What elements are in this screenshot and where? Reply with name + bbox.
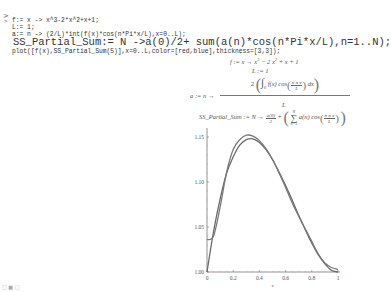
x-tick-label: 0.6 [282, 275, 289, 281]
output-f-definition: f := x → x3 − 2 x2 + x + 1 [230, 57, 298, 65]
code-line-plot[interactable]: plot([f(x),SS_Partial_Sum(5)],x=0..L,col… [12, 48, 280, 55]
x-tick-label: 0.2 [230, 275, 237, 281]
series-line-partial-sum [207, 135, 338, 269]
prompt-caret: > [4, 18, 8, 25]
code-line-partial-sum[interactable]: SS_Partial_Sum:= N ->a(0)/2+ sum(a(n)*co… [13, 37, 391, 48]
x-tick-label: 0.4 [256, 275, 263, 281]
line-chart[interactable]: 00.20.40.60.811.001.051.101.15x [180, 128, 352, 292]
status-bar: □ ■ □ [2, 284, 19, 290]
output-partial-sum-definition: SS_Partial_Sum := N → a(0)2 + ( N ∑ n=1 … [199, 109, 346, 127]
code-line-f[interactable]: f:= x -> x^3-2*x^2+x+1; [12, 17, 99, 24]
y-tick-label: 1.00 [194, 269, 204, 275]
plot-region[interactable]: 00.20.40.60.811.001.051.101.15x [180, 128, 352, 292]
x-tick-label: 1 [337, 275, 340, 281]
y-tick-label: 1.15 [194, 134, 204, 140]
y-tick-label: 1.10 [194, 179, 204, 185]
x-axis-label: x [270, 283, 274, 288]
output-L-definition: L := 1 [252, 67, 269, 74]
y-tick-label: 1.05 [194, 224, 204, 230]
code-line-L[interactable]: L:= 1; [12, 24, 35, 31]
x-tick-label: 0.8 [308, 275, 315, 281]
x-tick-label: 0 [206, 275, 209, 281]
